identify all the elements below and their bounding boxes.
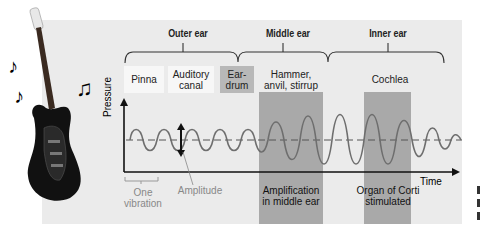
cropped-text-fragment (477, 186, 480, 194)
corti-label: Organ of Corti stimulated (352, 185, 424, 207)
cropped-text-fragment (477, 199, 480, 207)
cropped-text-fragment (477, 212, 480, 220)
y-axis-label: Pressure (102, 72, 113, 122)
amplification-label: Amplification in middle ear (258, 185, 324, 207)
one-vibration-label: One vibration (118, 187, 168, 209)
amplitude-label: Amplitude (170, 185, 230, 196)
